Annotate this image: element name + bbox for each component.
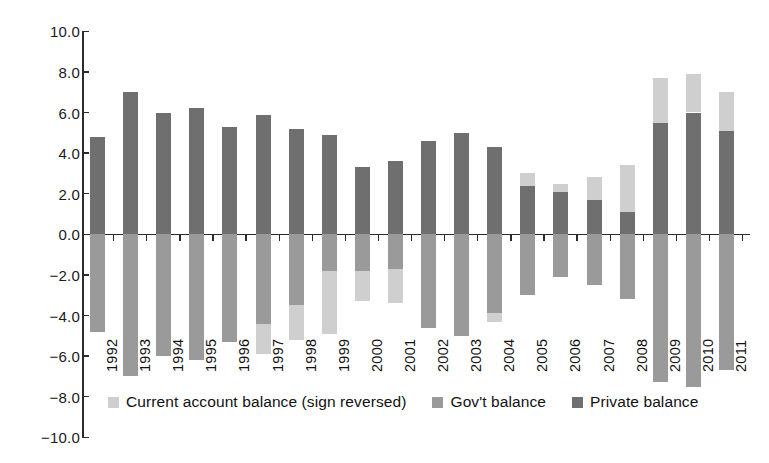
bar-segment-private — [322, 135, 337, 234]
x-tick-mark — [345, 234, 346, 241]
x-axis-label-2009: 2009 — [667, 339, 683, 372]
bar-segment-private — [222, 127, 237, 235]
bar-segment-govt — [256, 234, 271, 323]
bar-segment-govt — [90, 234, 105, 331]
bar-segment-govt — [156, 234, 171, 356]
bar-segment-current-account — [355, 271, 370, 301]
x-axis-label-2007: 2007 — [601, 339, 617, 372]
x-tick-mark — [510, 234, 511, 241]
bar-segment-private — [620, 212, 635, 234]
chart-root: 10.08.06.04.02.00.0−2.0−4.0−6.0−8.0−10.0… — [0, 0, 769, 463]
legend-label: Gov't balance — [450, 393, 546, 411]
bar-segment-govt — [222, 234, 237, 342]
x-axis-label-2010: 2010 — [700, 339, 716, 372]
x-tick-mark — [212, 234, 213, 241]
bar-segment-private — [123, 92, 138, 234]
bar-segment-govt — [620, 234, 635, 299]
x-axis-label-2006: 2006 — [567, 339, 583, 372]
x-tick-mark — [742, 234, 743, 241]
x-tick-mark — [676, 234, 677, 241]
x-axis-label-2002: 2002 — [435, 339, 451, 372]
x-axis-label-1999: 1999 — [336, 339, 352, 372]
x-tick-mark — [709, 234, 710, 241]
bar-segment-current-account — [719, 92, 734, 131]
x-axis-label-1993: 1993 — [137, 339, 153, 372]
bar-segment-current-account — [388, 269, 403, 304]
bar-segment-private — [90, 137, 105, 234]
x-axis-label-1992: 1992 — [104, 339, 120, 372]
bar-segment-current-account — [289, 305, 304, 340]
bar-segment-govt — [322, 234, 337, 271]
bar-segment-current-account — [256, 324, 271, 354]
x-axis-label-2001: 2001 — [402, 339, 418, 372]
x-tick-mark — [444, 234, 445, 241]
x-tick-mark — [477, 234, 478, 241]
bar-segment-current-account — [520, 173, 535, 185]
bar-segment-private — [189, 108, 204, 234]
legend-item[interactable]: Private balance — [572, 393, 698, 411]
legend-item[interactable]: Current account balance (sign reversed) — [108, 393, 406, 411]
bar-segment-private — [520, 186, 535, 235]
bar-segment-private — [719, 131, 734, 235]
bar-segment-current-account — [653, 78, 668, 123]
bar-column[interactable] — [90, 0, 105, 463]
bar-segment-govt — [421, 234, 436, 327]
bar-segment-govt — [520, 234, 535, 295]
bar-segment-govt — [487, 234, 502, 313]
bar-segment-govt — [587, 234, 602, 285]
bar-segment-private — [487, 147, 502, 234]
bar-segment-private — [553, 192, 568, 235]
x-axis-label-2005: 2005 — [534, 339, 550, 372]
bar-segment-private — [653, 123, 668, 235]
x-tick-mark — [543, 234, 544, 241]
x-tick-mark — [378, 234, 379, 241]
legend-item[interactable]: Gov't balance — [432, 393, 546, 411]
x-tick-mark — [411, 234, 412, 241]
bar-segment-private — [454, 133, 469, 235]
x-tick-mark — [312, 234, 313, 241]
bar-segment-current-account — [487, 313, 502, 321]
x-axis-label-2000: 2000 — [369, 339, 385, 372]
bar-segment-current-account — [620, 165, 635, 212]
x-axis-label-1997: 1997 — [270, 339, 286, 372]
bar-segment-govt — [123, 234, 138, 376]
bar-segment-govt — [553, 234, 568, 277]
x-tick-mark — [576, 234, 577, 241]
x-tick-mark — [146, 234, 147, 241]
bar-segment-govt — [653, 234, 668, 382]
bar-segment-current-account — [587, 177, 602, 199]
x-tick-mark — [643, 234, 644, 241]
x-axis-label-2004: 2004 — [501, 339, 517, 372]
bar-segment-private — [686, 113, 701, 235]
x-axis-label-1996: 1996 — [236, 339, 252, 372]
bar-segment-govt — [388, 234, 403, 269]
bar-segment-govt — [289, 234, 304, 305]
legend-label: Private balance — [590, 393, 698, 411]
bar-segment-private — [156, 113, 171, 235]
x-tick-mark — [610, 234, 611, 241]
x-axis-label-1998: 1998 — [303, 339, 319, 372]
bar-segment-private — [587, 200, 602, 235]
bar-segment-current-account — [686, 74, 701, 113]
x-axis-label-1994: 1994 — [170, 339, 186, 372]
x-tick-mark — [179, 234, 180, 241]
legend-swatch-icon — [108, 397, 119, 408]
x-axis-label-2008: 2008 — [634, 339, 650, 372]
x-tick-mark — [245, 234, 246, 241]
x-axis-label-1995: 1995 — [203, 339, 219, 372]
x-axis-label-2003: 2003 — [468, 339, 484, 372]
bar-segment-govt — [719, 234, 734, 370]
bar-segment-private — [355, 167, 370, 234]
legend-swatch-icon — [572, 397, 583, 408]
bar-segment-current-account — [322, 271, 337, 334]
x-tick-mark — [279, 234, 280, 241]
bar-segment-private — [289, 129, 304, 235]
bar-segment-private — [256, 115, 271, 235]
bar-segment-private — [388, 161, 403, 234]
bar-segment-private — [421, 141, 436, 234]
legend-swatch-icon — [432, 397, 443, 408]
bar-segment-govt — [686, 234, 701, 386]
bar-segment-current-account — [553, 184, 568, 192]
x-axis-label-2011: 2011 — [733, 340, 749, 372]
x-tick-mark — [113, 234, 114, 241]
